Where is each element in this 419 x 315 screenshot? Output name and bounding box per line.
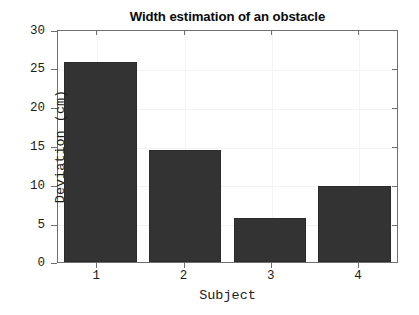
bar-subject-2[interactable] — [149, 150, 222, 262]
bar-subject-3[interactable] — [234, 218, 307, 262]
xtick-mark-top-1 — [96, 30, 97, 35]
plot-area — [57, 30, 398, 263]
ytick-mark-right-15 — [392, 147, 398, 148]
xtick-label-3: 3 — [251, 269, 291, 283]
ytick-label-10: 10 — [30, 179, 45, 193]
ytick-label-30: 30 — [30, 24, 45, 38]
ytick-mark-right-25 — [392, 69, 398, 70]
ytick-label-15: 15 — [30, 140, 45, 154]
xtick-label-4: 4 — [338, 269, 378, 283]
ytick-label-20: 20 — [30, 101, 45, 115]
xtick-mark-2 — [184, 263, 185, 268]
ytick-label-25: 25 — [30, 62, 45, 76]
bar-subject-1[interactable] — [64, 62, 137, 262]
y-axis-label: Deviation (cm) — [53, 30, 68, 263]
xtick-mark-4 — [358, 263, 359, 268]
xtick-mark-top-2 — [184, 30, 185, 35]
ytick-mark-right-5 — [392, 225, 398, 226]
ytick-label-5: 5 — [37, 218, 45, 232]
xtick-mark-1 — [96, 263, 97, 268]
xtick-mark-3 — [271, 263, 272, 268]
chart-title: Width estimation of an obstacle — [57, 9, 398, 24]
ytick-label-0: 0 — [37, 256, 45, 270]
figure-canvas: Width estimation of an obstacle 30 25 20… — [0, 0, 419, 315]
bar-subject-4[interactable] — [318, 186, 391, 262]
xtick-mark-top-4 — [358, 30, 359, 35]
xtick-label-1: 1 — [76, 269, 116, 283]
xtick-label-2: 2 — [164, 269, 204, 283]
ytick-mark-right-20 — [392, 108, 398, 109]
xtick-mark-top-3 — [271, 30, 272, 35]
x-axis-label: Subject — [57, 288, 398, 303]
ytick-mark-right-10 — [392, 186, 398, 187]
